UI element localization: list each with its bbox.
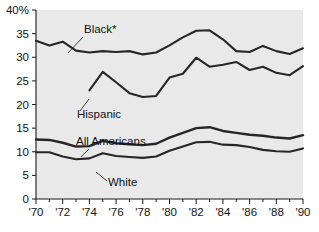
plot-area-background [36,10,303,199]
y-tick-label: 0 [23,193,29,205]
y-tick-label: 20 [16,99,29,111]
white-label: White [108,176,137,188]
black-label: Black* [84,23,117,35]
chart-svg: 40%35302520151050 '70'72'74'76'78'80'82'… [0,0,319,232]
x-tick-label: '74 [82,206,98,218]
x-tick-label: '86 [242,206,257,218]
y-tick-label: 40% [6,4,29,16]
x-tick-label: '72 [55,206,70,218]
all-americans-label: All Americans [76,135,146,147]
x-tick-label: '90 [296,206,311,218]
y-tick-label: 30 [16,51,29,63]
hispanic-label: Hispanic [77,108,121,120]
x-tick-label: '88 [269,206,284,218]
x-tick-label: '78 [135,206,150,218]
x-tick-label: '80 [162,206,177,218]
y-tick-label: 5 [23,169,29,181]
poverty-rate-chart: 40%35302520151050 '70'72'74'76'78'80'82'… [0,0,319,232]
y-tick-label: 35 [16,28,29,40]
y-tick-label: 10 [16,146,29,158]
x-tick-label: '70 [29,206,44,218]
y-tick-label: 15 [16,122,29,134]
x-tick-label: '76 [109,206,124,218]
y-tick-label: 25 [16,75,29,87]
x-tick-label: '82 [189,206,204,218]
x-tick-label: '84 [215,206,231,218]
